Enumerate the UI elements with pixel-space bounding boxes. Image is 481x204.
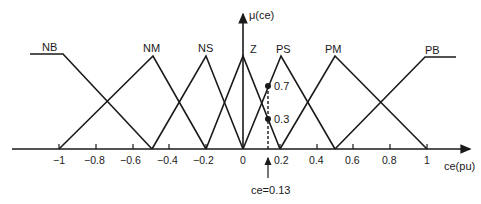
membership-function-diagram: μ(ce) ce(pu) NB NM NS Z PS PM PB 0.7 0.3… — [0, 0, 481, 204]
marker-label-0-3: 0.3 — [274, 113, 289, 125]
tick-label: 1 — [424, 154, 430, 166]
set-nm-curve — [59, 56, 206, 149]
tick-label: −0.8 — [84, 154, 105, 166]
marker-label-0-7: 0.7 — [274, 80, 289, 92]
set-label-ps: PS — [276, 43, 291, 55]
y-axis-label: μ(ce) — [249, 9, 274, 21]
ce-annotation: ce=0.13 — [251, 184, 290, 196]
set-label-nb: NB — [42, 41, 57, 53]
tick-label: −0.4 — [157, 154, 178, 166]
tick-label: −1 — [53, 154, 65, 166]
x-axis-label: ce(pu) — [444, 160, 475, 172]
marker-0-3 — [265, 116, 271, 122]
set-label-ns: NS — [198, 42, 213, 54]
set-pm-curve — [280, 56, 427, 149]
set-label-pm: PM — [325, 43, 342, 55]
tick-label: −0.2 — [193, 154, 214, 166]
tick-label: −0.6 — [120, 154, 141, 166]
tick-label: 0 — [240, 154, 246, 166]
set-label-nm: NM — [143, 42, 160, 54]
tick-label: 0.8 — [382, 154, 397, 166]
tick-label: 0.4 — [309, 154, 324, 166]
set-label-pb: PB — [425, 44, 440, 56]
tick-label: 0.6 — [345, 154, 360, 166]
set-nb-curve — [30, 54, 152, 149]
marker-0-7 — [265, 83, 271, 89]
set-pb-curve — [335, 57, 456, 149]
tick-label: 0.2 — [274, 154, 289, 166]
set-label-z: Z — [250, 43, 257, 55]
